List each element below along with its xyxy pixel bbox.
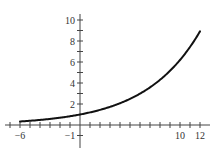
y-tick-label: 2 xyxy=(70,99,75,110)
y-tick-label: 6 xyxy=(70,57,75,68)
axes xyxy=(5,14,210,148)
x-tick-label: 10 xyxy=(175,130,185,141)
y-tick-label: 10 xyxy=(65,15,75,26)
axis-ticks xyxy=(10,20,200,136)
y-tick-label: 4 xyxy=(70,78,75,89)
x-tick-label: 12 xyxy=(195,130,205,141)
exponential-chart: −6−11012246810 xyxy=(0,0,219,154)
x-tick-label: −1 xyxy=(65,130,76,141)
x-tick-label: −6 xyxy=(15,130,26,141)
y-tick-label: 8 xyxy=(70,36,75,47)
curve-line xyxy=(20,31,200,121)
